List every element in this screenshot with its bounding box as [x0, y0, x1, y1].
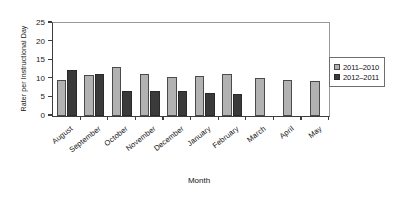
y-tick-label: 0 [17, 111, 45, 120]
plot-area [52, 22, 330, 117]
x-tick-label: March [245, 124, 267, 144]
bar-chart-figure: Rater per Instructional Day 0510152025 A… [0, 0, 398, 200]
y-tick-label: 15 [17, 55, 45, 64]
legend-label: 2011–2010 [343, 63, 379, 72]
bar-group [81, 23, 109, 116]
x-tick-mark [107, 116, 108, 120]
legend-swatch-icon [334, 64, 340, 70]
bar [112, 67, 122, 116]
bar [222, 74, 232, 116]
bar [195, 76, 205, 116]
bar-group [219, 23, 247, 116]
bar-group [274, 23, 302, 116]
x-tick-mark [218, 116, 219, 120]
y-tick-label: 10 [17, 73, 45, 82]
bar [283, 80, 293, 116]
bar [67, 70, 77, 116]
bar-group [301, 23, 329, 116]
bar [233, 94, 243, 116]
x-tick-mark [80, 116, 81, 120]
legend-label: 2012–2011 [343, 73, 379, 82]
bar [122, 91, 132, 116]
x-tick-label: April [278, 124, 296, 141]
y-tick-label: 25 [17, 18, 45, 27]
bar [150, 91, 160, 116]
bar-group [191, 23, 219, 116]
chart-legend: 2011–20102012–2011 [329, 57, 385, 87]
x-tick-mark [135, 116, 136, 120]
x-tick-mark [162, 116, 163, 120]
bar-group [108, 23, 136, 116]
x-tick-mark [300, 116, 301, 120]
y-tick-label: 20 [17, 36, 45, 45]
x-tick-label: November [124, 124, 157, 153]
x-axis-title: Month [0, 176, 398, 185]
y-tick-label: 5 [17, 92, 45, 101]
legend-entry[interactable]: 2011–2010 [334, 62, 379, 72]
x-tick-label: January [186, 124, 213, 148]
bar [57, 80, 67, 116]
bar [167, 77, 177, 116]
bar [255, 78, 265, 116]
bar [95, 74, 105, 116]
x-tick-label: May [306, 124, 323, 140]
bar-group [53, 23, 81, 116]
x-tick-label: December [152, 124, 185, 153]
bar-group [136, 23, 164, 116]
bar [310, 81, 320, 116]
bar [205, 93, 215, 116]
bar-group [163, 23, 191, 116]
x-tick-label: February [210, 124, 240, 150]
bars-layer [53, 23, 329, 116]
bar [178, 91, 188, 116]
x-tick-mark [328, 116, 329, 120]
legend-entry[interactable]: 2012–2011 [334, 72, 379, 82]
bar-group [246, 23, 274, 116]
legend-swatch-icon [334, 74, 340, 80]
x-tick-mark [273, 116, 274, 120]
bar [140, 74, 150, 116]
x-tick-mark [190, 116, 191, 120]
bar [84, 75, 94, 116]
x-tick-mark [245, 116, 246, 120]
